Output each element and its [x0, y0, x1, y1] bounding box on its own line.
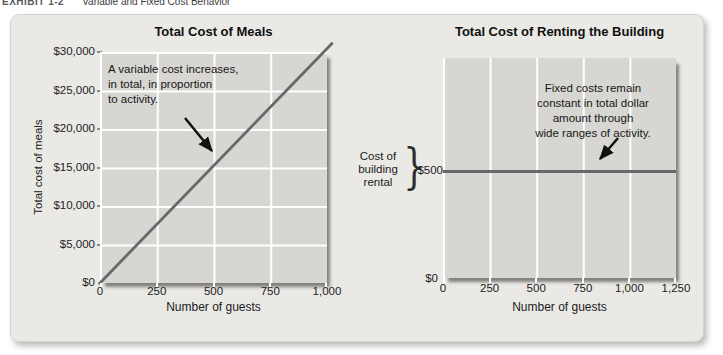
- down-left-arrow-icon: [587, 133, 631, 173]
- left-x-tick-label: 0: [70, 285, 130, 297]
- left-y-tick-label: $5,000: [25, 238, 95, 250]
- left-x-tick-label: 1,000: [297, 285, 357, 297]
- right-chart-x-axis-label: Number of guests: [443, 300, 676, 314]
- right-x-tick-label: 1,250: [646, 282, 706, 294]
- left-x-tick-label: 500: [184, 285, 244, 297]
- left-chart-x-axis-label: Number of guests: [100, 300, 327, 314]
- exhibit-caption: EXHIBIT 1-2Variable and Fixed Cost Behav…: [2, 0, 230, 7]
- variable-cost-annotation: A variable cost increases, in total, in …: [108, 62, 238, 107]
- annotation-line: amount through: [507, 111, 679, 126]
- annotation-line: to activity.: [108, 92, 238, 107]
- figure-panel: Total Cost of Meals Total cost of meals …: [10, 14, 704, 342]
- right-chart-title: Total Cost of Renting the Building: [443, 24, 676, 39]
- annotation-line: constant in total dollar: [507, 96, 679, 111]
- fixed-cost-value-label: $500: [409, 164, 443, 176]
- left-x-tick-label: 250: [127, 285, 187, 297]
- rental-label-line: building: [347, 163, 409, 176]
- left-chart-title: Total Cost of Meals: [100, 24, 327, 39]
- left-y-tick-label: $10,000: [25, 199, 95, 211]
- down-right-arrow-icon: [179, 113, 227, 165]
- annotation-line: in total, in proportion: [108, 77, 238, 92]
- fixed-cost-annotation: Fixed costs remain constant in total dol…: [507, 81, 679, 141]
- left-y-tick-label: $15,000: [25, 161, 95, 173]
- fixed-cost-line: [443, 170, 676, 173]
- exhibit-number: EXHIBIT 1-2: [2, 0, 64, 7]
- left-y-tick-label: $20,000: [25, 122, 95, 134]
- annotation-line: A variable cost increases,: [108, 62, 238, 77]
- annotation-line: Fixed costs remain: [507, 81, 679, 96]
- rental-axis-group-label: Cost of building rental: [347, 150, 409, 189]
- rental-label-line: Cost of: [347, 150, 409, 163]
- exhibit-figure: EXHIBIT 1-2Variable and Fixed Cost Behav…: [0, 0, 723, 355]
- left-x-tick-label: 750: [240, 285, 300, 297]
- rental-label-line: rental: [347, 176, 409, 189]
- exhibit-title: Variable and Fixed Cost Behavior: [82, 0, 230, 7]
- left-y-tick-label: $30,000: [25, 45, 95, 57]
- left-y-tick-label: $25,000: [25, 84, 95, 96]
